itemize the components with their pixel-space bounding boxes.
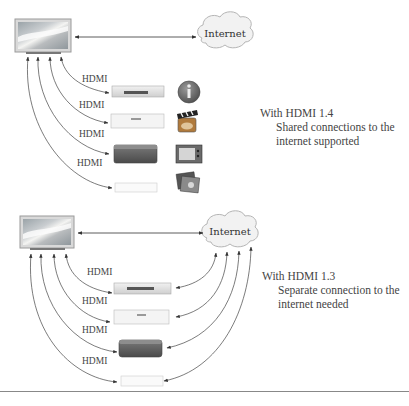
set-top-box	[114, 310, 169, 324]
hdmi-label: HDMI	[82, 325, 107, 335]
caption-title: With HDMI 1.4	[260, 106, 394, 120]
panel-hdmi-1-4: Internet HDMI HDMI HDMI HDMI	[15, 12, 253, 193]
tv-icon	[176, 145, 202, 163]
internet-cloud: Internet	[198, 12, 254, 48]
cloud-label: Internet	[204, 28, 245, 39]
hdmi-label: HDMI	[79, 100, 104, 110]
hdmi-label: HDMI	[82, 296, 107, 306]
hdmi-label: HDMI	[87, 267, 112, 277]
game-console	[121, 376, 163, 386]
media-box	[119, 340, 162, 357]
hdmi-label: HDMI	[77, 158, 102, 168]
hdmi-label: HDMI	[79, 129, 104, 139]
cloud-label: Internet	[209, 226, 250, 237]
caption-hdmi-1-4: With HDMI 1.4 Shared connections to the …	[260, 106, 394, 148]
hdmi-label: HDMI	[82, 74, 107, 84]
caption-line: internet needed	[262, 297, 400, 311]
caption-title: With HDMI 1.3	[262, 269, 400, 283]
tv-icon	[20, 216, 74, 250]
panel-hdmi-1-3: Internet HDMI HDMI HDMI HDMI	[20, 211, 258, 386]
internet-connections	[164, 247, 251, 381]
clapperboard-icon	[177, 110, 198, 132]
photos-icon	[176, 172, 200, 193]
info-icon	[178, 81, 200, 103]
hdmi-label: HDMI	[82, 356, 107, 366]
horizontal-rule	[0, 391, 409, 392]
caption-line: Separate connection to the	[262, 283, 400, 297]
game-console	[115, 183, 157, 192]
dvd-player	[112, 86, 164, 97]
caption-hdmi-1-3: With HDMI 1.3 Separate connection to the…	[262, 269, 400, 311]
caption-line: Shared connections to the	[260, 120, 394, 134]
hdmi-diagram: Internet HDMI HDMI HDMI HDMI	[0, 0, 409, 406]
media-box	[114, 145, 157, 163]
set-top-box	[111, 114, 164, 128]
caption-line: internet supported	[260, 134, 394, 148]
dvd-player	[114, 283, 171, 294]
internet-cloud: Internet	[202, 211, 258, 247]
tv-icon	[15, 19, 71, 54]
